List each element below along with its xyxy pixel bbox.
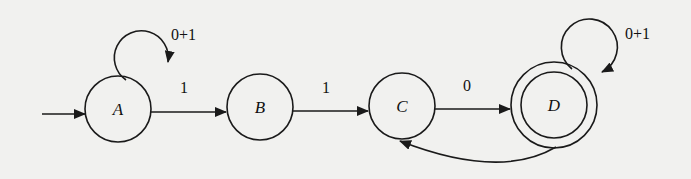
edge-c-d: 0 — [435, 77, 510, 109]
state-b-label: B — [255, 98, 266, 117]
loop-a: 0+1 — [114, 26, 196, 80]
edge-a-b-label: 1 — [180, 79, 188, 96]
state-c-label: C — [396, 97, 408, 116]
diagram-svg: A 0+1 1 B 1 C 0 — [0, 0, 691, 179]
loop-a-label: 0+1 — [171, 26, 196, 43]
loop-d-label: 0+1 — [625, 25, 650, 42]
state-d-label: D — [547, 96, 561, 115]
edge-b-c-label: 1 — [322, 79, 330, 96]
loop-d: 0+1 — [561, 19, 650, 72]
edge-c-d-label: 0 — [463, 77, 471, 94]
edge-b-c: 1 — [293, 79, 368, 111]
state-a-label: A — [112, 100, 124, 119]
state-a: A — [85, 76, 151, 142]
state-c: C — [369, 73, 435, 139]
edge-d-c-arc — [400, 141, 556, 162]
automaton-diagram: A 0+1 1 B 1 C 0 — [0, 0, 691, 179]
state-d: D — [511, 62, 597, 148]
loop-d-arc — [561, 19, 617, 72]
state-b: B — [227, 74, 293, 140]
edge-a-b: 1 — [151, 79, 226, 112]
loop-a-arc — [114, 31, 168, 80]
